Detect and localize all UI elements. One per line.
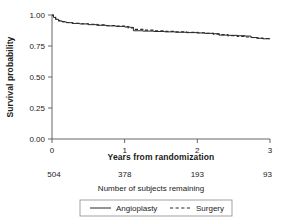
x-tick-label: 3 — [268, 146, 273, 155]
legend-label-surgery: Surgery — [196, 204, 224, 213]
at-risk-caption: Number of subjects remaining — [98, 184, 204, 193]
at-risk-numbers: 50437819393 — [47, 170, 272, 179]
y-tick-label: 0.75 — [29, 42, 45, 51]
x-tick-marks — [52, 139, 270, 143]
kaplan-meier-chart: Survival probability 0.000.250.500.751.0… — [0, 0, 281, 224]
at-risk-count: 504 — [47, 170, 61, 179]
legend-label-angioplasty: Angioplasty — [116, 204, 157, 213]
y-tick-labels: 0.000.250.500.751.00 — [29, 11, 45, 144]
y-tick-label: 0.25 — [29, 104, 45, 113]
series-paths — [52, 15, 270, 39]
x-axis-title: Years from randomization — [108, 152, 215, 162]
y-tick-label: 1.00 — [29, 11, 45, 20]
at-risk-count: 378 — [118, 170, 132, 179]
at-risk-count: 93 — [263, 170, 272, 179]
chart-legend: Angioplasty Surgery — [80, 200, 232, 216]
y-tick-label: 0.50 — [29, 73, 45, 82]
x-tick-label: 0 — [50, 146, 55, 155]
y-axis-title: Survival probability — [5, 36, 15, 117]
series-path-surgery — [52, 15, 270, 39]
y-tick-marks — [48, 15, 52, 139]
at-risk-count: 193 — [191, 170, 205, 179]
survival-curve-figure: Survival probability 0.000.250.500.751.0… — [0, 0, 281, 224]
y-tick-label: 0.00 — [29, 135, 45, 144]
